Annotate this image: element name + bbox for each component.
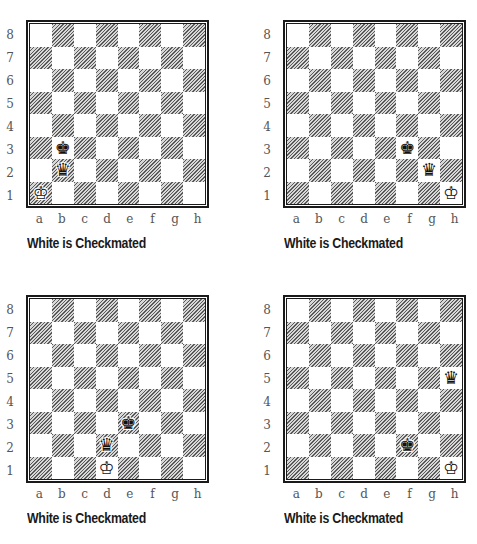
file-label: b <box>51 212 74 226</box>
square-h6 <box>183 69 205 92</box>
rank-labels: 87654321 <box>257 23 277 207</box>
square-h8 <box>183 299 205 322</box>
square-h5 <box>183 92 205 115</box>
rank-label: 4 <box>0 115 20 138</box>
square-a5 <box>287 367 309 390</box>
square-a1 <box>30 457 52 480</box>
square-h3 <box>183 412 205 435</box>
square-d2: ♛ <box>96 434 118 457</box>
file-labels: abcdefgh <box>285 487 466 501</box>
square-d3 <box>96 137 118 160</box>
square-h1 <box>183 182 205 205</box>
square-h4 <box>183 389 205 412</box>
square-e4 <box>118 114 140 137</box>
square-a3 <box>287 137 309 160</box>
square-b7 <box>309 47 331 70</box>
square-c3 <box>331 412 353 435</box>
square-f2 <box>139 434 161 457</box>
square-g3 <box>161 412 183 435</box>
square-f2: ♚ <box>396 434 418 457</box>
square-a1 <box>287 457 309 480</box>
square-g7 <box>418 47 440 70</box>
square-b1 <box>52 457 74 480</box>
square-f3 <box>139 137 161 160</box>
square-e7 <box>375 322 397 345</box>
black-queen-icon: ♛ <box>55 161 71 179</box>
square-d6 <box>96 69 118 92</box>
square-h5: ♛ <box>440 367 462 390</box>
square-d8 <box>353 299 375 322</box>
rank-label: 3 <box>257 413 277 436</box>
square-d4 <box>353 389 375 412</box>
square-f8 <box>396 24 418 47</box>
diagram-1: 87654321 ♚♛♔ abcdefgh White is Checkmate… <box>0 0 240 272</box>
square-e3 <box>118 137 140 160</box>
file-label: g <box>421 487 444 501</box>
square-b4 <box>52 389 74 412</box>
diagram-2: 87654321 ♚♛♔ abcdefgh White is Checkmate… <box>257 0 477 272</box>
square-b3 <box>309 137 331 160</box>
square-g6 <box>161 344 183 367</box>
square-b2: ♛ <box>52 159 74 182</box>
square-h4 <box>183 114 205 137</box>
square-c3 <box>331 137 353 160</box>
square-d8 <box>353 24 375 47</box>
file-labels: abcdefgh <box>28 487 209 501</box>
square-a3 <box>287 412 309 435</box>
rank-label: 6 <box>257 69 277 92</box>
rank-label: 1 <box>257 184 277 207</box>
file-label: e <box>119 487 142 501</box>
square-f6 <box>396 344 418 367</box>
file-label: e <box>119 212 142 226</box>
square-c4 <box>331 114 353 137</box>
square-d7 <box>96 322 118 345</box>
square-c4 <box>74 114 96 137</box>
file-label: h <box>186 487 209 501</box>
square-e8 <box>118 24 140 47</box>
square-b5 <box>52 367 74 390</box>
square-d1 <box>353 457 375 480</box>
rank-label: 7 <box>257 46 277 69</box>
rank-label: 8 <box>0 298 20 321</box>
square-a7 <box>287 47 309 70</box>
square-a3 <box>30 412 52 435</box>
file-label: e <box>376 487 399 501</box>
square-b4 <box>52 114 74 137</box>
black-king-icon: ♚ <box>399 436 415 454</box>
black-queen-icon: ♛ <box>421 161 437 179</box>
square-d8 <box>96 24 118 47</box>
square-h7 <box>440 322 462 345</box>
chessboard: ♛♚♔ <box>283 295 466 483</box>
square-a2 <box>30 159 52 182</box>
square-f2 <box>139 159 161 182</box>
square-b5 <box>52 92 74 115</box>
square-e6 <box>375 69 397 92</box>
rank-label: 3 <box>257 138 277 161</box>
square-b3 <box>52 412 74 435</box>
square-a1: ♔ <box>30 182 52 205</box>
board-squares: ♚♛♔ <box>29 298 206 480</box>
square-c7 <box>331 322 353 345</box>
square-c4 <box>331 389 353 412</box>
diagram-3: 87654321 ♚♛♔ abcdefgh White is Checkmate… <box>0 275 240 544</box>
square-e2 <box>118 159 140 182</box>
file-label: b <box>308 487 331 501</box>
square-a4 <box>30 114 52 137</box>
square-e5 <box>375 367 397 390</box>
square-a6 <box>30 344 52 367</box>
rank-label: 4 <box>0 390 20 413</box>
rank-label: 1 <box>0 184 20 207</box>
rank-label: 5 <box>0 367 20 390</box>
square-b8 <box>309 299 331 322</box>
square-g5 <box>161 92 183 115</box>
square-h5 <box>440 92 462 115</box>
square-e2 <box>375 159 397 182</box>
square-c6 <box>74 69 96 92</box>
board-squares: ♚♛♔ <box>29 23 206 205</box>
square-d5 <box>353 92 375 115</box>
square-a3 <box>30 137 52 160</box>
square-d4 <box>96 389 118 412</box>
square-d3 <box>353 137 375 160</box>
square-a1 <box>287 182 309 205</box>
square-h8 <box>440 299 462 322</box>
